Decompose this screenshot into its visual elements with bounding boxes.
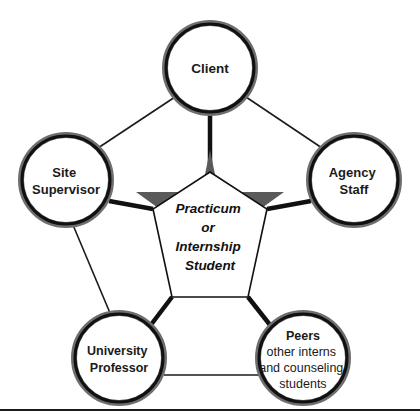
university-professor-line-1: Professor xyxy=(90,361,148,375)
agency-staff-line-1: Staff xyxy=(340,182,370,197)
peers-line-2: and counseling xyxy=(259,361,343,375)
client-label: Client xyxy=(191,61,229,76)
relationship-diagram: Practicum or Internship Student Client S… xyxy=(0,0,420,417)
university-professor-line-0: University xyxy=(87,344,147,358)
peers-label: Peers xyxy=(286,329,320,343)
diagram-canvas: Practicum or Internship Student Client S… xyxy=(0,0,420,417)
agency-staff-line-0: Agency xyxy=(329,165,377,180)
peers-line-3: students xyxy=(279,377,326,391)
center-line-2: Internship xyxy=(175,239,240,254)
spoke-center-agency-staff xyxy=(267,201,311,209)
node-client[interactable]: Client xyxy=(165,23,255,113)
link-site-supervisor-university-professor xyxy=(73,225,110,313)
spoke-center-site-supervisor xyxy=(109,201,153,209)
node-site-supervisor[interactable]: Site Supervisor xyxy=(21,135,111,225)
client-line-0: Client xyxy=(191,61,229,76)
node-university-professor[interactable]: University Professor xyxy=(74,313,164,403)
center-figure: Practicum or Internship Student xyxy=(136,150,284,297)
center-line-3: Student xyxy=(185,258,236,273)
site-supervisor-line-0: Site xyxy=(52,165,76,180)
link-client-agency-staff xyxy=(243,95,322,148)
link-site-supervisor-client xyxy=(98,95,178,148)
center-line-1: or xyxy=(201,220,215,235)
center-line-0: Practicum xyxy=(175,201,240,216)
node-agency-staff[interactable]: Agency Staff xyxy=(309,135,399,225)
site-supervisor-line-1: Supervisor xyxy=(32,182,100,197)
peers-line-0: Peers xyxy=(286,329,320,343)
node-peers[interactable]: Peers other interns and counseling stude… xyxy=(258,313,348,403)
peers-line-1: other interns xyxy=(267,345,336,359)
